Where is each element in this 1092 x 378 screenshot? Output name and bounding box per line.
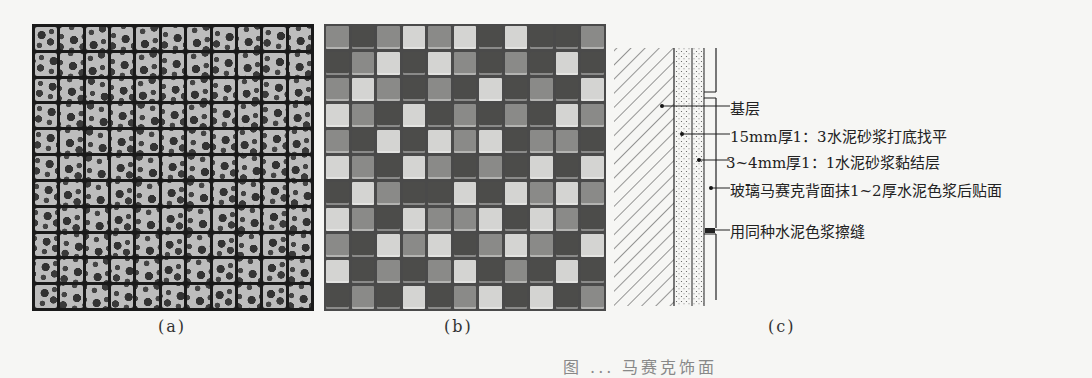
glass-tile	[530, 260, 553, 283]
caption-b: (b)	[444, 317, 473, 336]
floral-tile	[86, 182, 108, 205]
glass-tile	[581, 208, 604, 231]
floral-tile	[35, 104, 57, 127]
floral-tile	[86, 130, 108, 153]
floral-tile	[35, 130, 57, 153]
floral-tile	[187, 182, 209, 205]
glass-tile	[326, 52, 349, 75]
glass-tile	[428, 78, 451, 101]
glass-tile	[352, 52, 375, 75]
glass-tile	[454, 52, 477, 75]
glass-tile	[377, 52, 400, 75]
floral-tile	[136, 27, 158, 50]
glass-tile	[556, 208, 579, 231]
glass-tile	[352, 234, 375, 257]
floral-tile	[263, 182, 285, 205]
floral-tile	[111, 53, 133, 76]
glass-tile	[403, 26, 426, 49]
floral-tile	[162, 130, 184, 153]
glass-tile	[479, 26, 502, 49]
glass-tile	[479, 234, 502, 257]
glass-tile	[479, 260, 502, 283]
floral-tile	[289, 27, 311, 50]
glass-tile	[403, 78, 426, 101]
glass-tile	[403, 260, 426, 283]
glass-tile	[556, 130, 579, 153]
floral-tile	[187, 130, 209, 153]
glass-tile	[581, 104, 604, 127]
floral-tile	[238, 234, 260, 257]
floral-tile	[86, 156, 108, 179]
glass-tile	[479, 182, 502, 205]
floral-tile	[86, 53, 108, 76]
floral-tile	[162, 79, 184, 102]
glass-tile	[505, 182, 528, 205]
floral-tile	[86, 234, 108, 257]
leveling-layer	[675, 48, 691, 306]
floral-tile	[213, 285, 235, 308]
floral-tile	[162, 234, 184, 257]
label-grout: 用同种水泥色浆擦缝	[730, 220, 865, 241]
glass-checker-mosaic	[324, 24, 606, 311]
floral-tile	[238, 104, 260, 127]
label-base-layer: 基层	[730, 97, 760, 118]
floral-tile	[263, 130, 285, 153]
floral-tile	[238, 156, 260, 179]
floral-tile	[213, 130, 235, 153]
glass-tile	[530, 26, 553, 49]
floral-tile	[86, 104, 108, 127]
glass-tile	[377, 234, 400, 257]
floral-tile	[162, 156, 184, 179]
floral-tile	[35, 27, 57, 50]
glass-tile	[454, 260, 477, 283]
floral-tile	[60, 130, 82, 153]
glass-tile	[505, 208, 528, 231]
floral-tile	[111, 208, 133, 231]
floral-tile	[136, 208, 158, 231]
glass-tile	[403, 286, 426, 309]
glass-tile	[326, 208, 349, 231]
floral-tile	[289, 285, 311, 308]
glass-tile	[505, 26, 528, 49]
glass-tile	[326, 182, 349, 205]
glass-tile	[530, 208, 553, 231]
floral-tile	[111, 234, 133, 257]
floral-tile	[111, 104, 133, 127]
floral-tile	[162, 259, 184, 282]
glass-tile	[556, 104, 579, 127]
floral-tile	[35, 53, 57, 76]
glass-tile	[581, 182, 604, 205]
glass-tile	[530, 52, 553, 75]
floral-tile	[162, 27, 184, 50]
glass-tile	[505, 156, 528, 179]
glass-tile	[377, 208, 400, 231]
floral-tile	[289, 130, 311, 153]
floral-tile	[60, 27, 82, 50]
glass-tile	[403, 234, 426, 257]
floral-tile	[289, 104, 311, 127]
glass-tile	[530, 286, 553, 309]
floral-tile	[86, 208, 108, 231]
floral-tile	[111, 259, 133, 282]
floral-tile	[263, 285, 285, 308]
glass-tile	[505, 104, 528, 127]
glass-tile	[326, 260, 349, 283]
glass-tile	[530, 104, 553, 127]
floral-tile	[289, 53, 311, 76]
glass-tile	[326, 130, 349, 153]
floral-tile	[86, 27, 108, 50]
floral-tile	[136, 130, 158, 153]
floral-tile	[60, 182, 82, 205]
label-mosaic-face: 玻璃马赛克背面抹1~2厚水泥色浆后贴面	[730, 179, 1002, 200]
wall-section-diagram	[610, 40, 730, 310]
glass-tile	[352, 286, 375, 309]
glass-tile	[581, 286, 604, 309]
floral-tile	[136, 285, 158, 308]
glass-tile	[530, 130, 553, 153]
glass-tile	[428, 52, 451, 75]
floral-tile	[187, 27, 209, 50]
glass-tile	[530, 182, 553, 205]
glass-tile	[505, 52, 528, 75]
glass-tile	[479, 156, 502, 179]
floral-tile	[213, 53, 235, 76]
